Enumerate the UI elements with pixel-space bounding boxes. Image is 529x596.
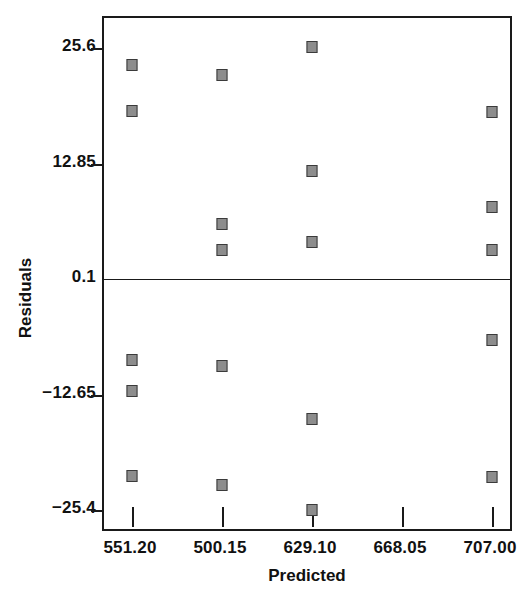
data-point <box>127 385 138 397</box>
data-point <box>127 105 138 117</box>
residuals-scatter-figure: Residuals 25.612.850.1−12.65−25.4 Predic… <box>0 0 529 596</box>
data-point <box>127 354 138 366</box>
x-tick-label: 629.10 <box>283 538 336 558</box>
data-point <box>307 413 318 425</box>
data-point <box>217 218 228 230</box>
x-tick-label: 707.00 <box>463 538 516 558</box>
y-tick-label: −12.65 <box>42 383 96 403</box>
x-tick-label: 551.20 <box>103 538 156 558</box>
y-tick-mark <box>91 395 104 397</box>
data-point <box>487 471 498 483</box>
x-tick-mark <box>402 507 404 527</box>
x-axis-title: Predicted <box>268 566 345 586</box>
data-point <box>487 244 498 256</box>
data-point <box>487 334 498 346</box>
data-point <box>487 106 498 118</box>
data-point <box>217 69 228 81</box>
data-point <box>307 236 318 248</box>
y-tick-label: 0.1 <box>72 267 96 287</box>
x-tick-label: 500.15 <box>193 538 246 558</box>
data-point <box>307 165 318 177</box>
y-tick-mark <box>91 164 104 166</box>
data-point <box>217 360 228 372</box>
x-tick-mark <box>222 507 224 527</box>
x-tick-mark <box>492 507 494 527</box>
y-tick-label: 12.85 <box>52 152 96 172</box>
data-point <box>217 244 228 256</box>
plot-area <box>102 16 512 531</box>
x-tick-label: 668.05 <box>373 538 426 558</box>
data-point <box>487 201 498 213</box>
data-point <box>217 479 228 491</box>
data-point <box>307 504 318 516</box>
y-tick-label: −25.4 <box>52 498 96 518</box>
y-tick-mark <box>91 510 104 512</box>
y-axis-tick-labels: 25.612.850.1−12.65−25.4 <box>0 0 96 596</box>
zero-reference-line <box>104 279 510 280</box>
x-tick-mark <box>132 507 134 527</box>
y-tick-mark <box>91 48 104 50</box>
y-tick-label: 25.6 <box>62 36 96 56</box>
data-point <box>127 470 138 482</box>
data-point <box>307 41 318 53</box>
data-point <box>127 59 138 71</box>
